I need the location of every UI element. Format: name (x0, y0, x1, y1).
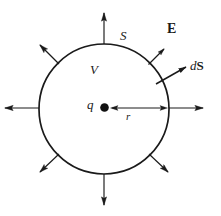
radius-label-r: r (126, 111, 130, 122)
radius-arrow (111, 106, 168, 111)
area-element-label-dS: dS (190, 59, 204, 72)
area-element-label-S: S (197, 58, 204, 73)
field-arrow-upper-left (40, 45, 59, 64)
charge-label-q: q (87, 98, 94, 111)
field-label-E: E (167, 22, 176, 36)
volume-label-V: V (90, 63, 98, 76)
field-arrow-lower-left (40, 154, 59, 172)
field-arrow-upper-right (149, 49, 165, 65)
figure-canvas (0, 0, 221, 216)
field-arrow-lower-right (149, 154, 168, 172)
gauss-law-figure: S V q r E dS (0, 0, 221, 216)
surface-label-S: S (120, 29, 127, 42)
point-charge-dot (100, 103, 109, 112)
